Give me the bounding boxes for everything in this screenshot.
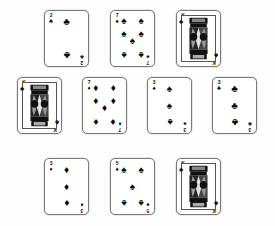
pip-field: ♣♣ bbox=[52, 15, 81, 62]
suit-pip-icon: ♦ bbox=[64, 198, 69, 208]
pip-field: ♠♠♠ bbox=[155, 82, 184, 129]
suit-pip-icon: ♠ bbox=[167, 84, 172, 94]
suit-pip-icon: ♣ bbox=[231, 117, 238, 127]
playing-card[interactable]: 2 ♣ 2 ♣ ♣♣ bbox=[44, 10, 89, 67]
pip-field: ♠♠♠♠♠ bbox=[118, 163, 147, 210]
suit-pip-icon: ♠ bbox=[167, 101, 172, 111]
suit-pip-icon: ♠ bbox=[139, 16, 144, 26]
suit-pip-icon: ♠ bbox=[139, 165, 144, 175]
playing-card[interactable]: 5 ♠ 5 ♠ ♠♠♠♠♠ bbox=[110, 158, 155, 215]
suit-pip-icon: ♦ bbox=[64, 182, 69, 192]
suit-pip-icon: ♣ bbox=[63, 50, 70, 60]
suit-pip-icon: ♠ bbox=[214, 51, 218, 59]
suit-pip-icon: ♦ bbox=[111, 117, 116, 127]
suit-pip-icon: ♠ bbox=[139, 29, 144, 39]
suit-pip-icon: ♣ bbox=[63, 17, 70, 27]
suit-pip-icon: ♠ bbox=[121, 50, 126, 60]
suit-pip-icon: ♠ bbox=[20, 85, 24, 93]
playing-card[interactable]: 3 ♦ 3 ♦ ♦♦♦ bbox=[44, 158, 89, 215]
playing-card[interactable]: 3 ♣ 3 ♣ ♣♣♣ bbox=[212, 77, 257, 134]
suit-pip-icon: ♠ bbox=[179, 18, 183, 26]
playing-card[interactable]: K ♠ K ♠ ♠♠ bbox=[176, 158, 221, 215]
suit-pip-icon: ♦ bbox=[93, 83, 98, 93]
suit-pip-icon: ♦ bbox=[93, 117, 98, 127]
suit-pip-icon: ♠ bbox=[139, 198, 144, 208]
suit-pip-icon: ♠ bbox=[214, 199, 218, 207]
playing-card[interactable]: 7 ♦ 7 ♦ ♦♦♦♦♦♦♦ bbox=[82, 77, 127, 134]
suit-pip-icon: ♦ bbox=[64, 165, 69, 175]
suit-pip-icon: ♠ bbox=[167, 117, 172, 127]
court-card-artwork bbox=[181, 163, 216, 210]
suit-pip-icon: ♠ bbox=[139, 50, 144, 60]
suit-pip-icon: ♠ bbox=[55, 118, 59, 126]
suit-pip-icon: ♠ bbox=[121, 198, 126, 208]
suit-pip-icon: ♦ bbox=[102, 103, 107, 113]
court-card-artwork bbox=[22, 82, 57, 129]
playing-card[interactable]: K ♠ K ♠ ♠♠ bbox=[176, 10, 221, 67]
pip-field: ♠♠♠♠♠♠♠ bbox=[118, 15, 147, 62]
card-row-top: 2 ♣ 2 ♣ ♣♣ 7 ♠ 7 ♠ ♠♠♠♠♠♠♠ K ♠ bbox=[44, 10, 221, 67]
card-row-middle: K ♠ K ♠ ♠♠ 7 ♦ bbox=[17, 77, 257, 134]
suit-pip-icon: ♣ bbox=[231, 101, 238, 111]
suit-pip-icon: ♠ bbox=[121, 29, 126, 39]
pip-field: ♦♦♦ bbox=[52, 163, 81, 210]
playing-card[interactable]: K ♠ K ♠ ♠♠ bbox=[17, 77, 62, 134]
suit-pip-icon: ♠ bbox=[179, 166, 183, 174]
suit-pip-icon: ♠ bbox=[121, 16, 126, 26]
pip-field: ♦♦♦♦♦♦♦ bbox=[90, 82, 119, 129]
court-card-artwork bbox=[181, 15, 216, 62]
suit-pip-icon: ♣ bbox=[231, 84, 238, 94]
suit-pip-icon: ♦ bbox=[111, 83, 116, 93]
suit-pip-icon: ♠ bbox=[130, 182, 135, 192]
suit-pip-icon: ♦ bbox=[93, 96, 98, 106]
suit-pip-icon: ♠ bbox=[121, 165, 126, 175]
pip-field: ♣♣♣ bbox=[220, 82, 249, 129]
playing-card[interactable]: 7 ♠ 7 ♠ ♠♠♠♠♠♠♠ bbox=[110, 10, 155, 67]
card-row-bottom: 3 ♦ 3 ♦ ♦♦♦ 5 ♠ 5 ♠ ♠♠♠♠♠ K ♠ bbox=[44, 158, 221, 215]
playing-card[interactable]: 3 ♠ 3 ♠ ♠♠♠ bbox=[147, 77, 192, 134]
suit-pip-icon: ♠ bbox=[130, 36, 135, 46]
suit-pip-icon: ♦ bbox=[111, 96, 116, 106]
